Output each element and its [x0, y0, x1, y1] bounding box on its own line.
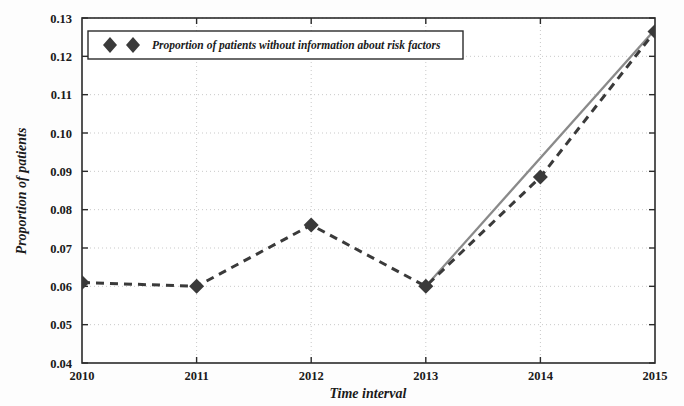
x-tick-label: 2010: [70, 369, 95, 383]
y-tick-label: 0.12: [50, 50, 72, 64]
y-tick-label: 0.13: [50, 12, 72, 26]
y-tick-label: 0.07: [50, 242, 72, 256]
y-tick-label: 0.09: [50, 165, 72, 179]
x-tick-label: 2015: [643, 369, 668, 383]
y-axis-tick-labels: 0.040.050.060.070.080.090.100.110.120.13: [50, 12, 73, 371]
y-tick-label: 0.08: [50, 203, 72, 217]
line-chart: 0.040.050.060.070.080.090.100.110.120.13…: [0, 0, 684, 406]
y-tick-label: 0.10: [50, 127, 72, 141]
x-tick-label: 2011: [184, 369, 208, 383]
y-tick-label: 0.05: [50, 318, 72, 332]
x-tick-label: 2014: [528, 369, 554, 383]
plot-background: [82, 18, 655, 363]
y-axis-title: Proportion of patients: [14, 127, 29, 254]
y-tick-label: 0.11: [51, 88, 72, 102]
x-tick-label: 2012: [299, 369, 324, 383]
chart-legend[interactable]: Proportion of patients without informati…: [88, 31, 463, 59]
y-tick-label: 0.06: [50, 280, 72, 294]
legend-item-label: Proportion of patients without informati…: [152, 39, 441, 52]
x-axis-title: Time interval: [330, 386, 407, 401]
x-tick-label: 2013: [413, 369, 438, 383]
x-axis-tick-labels: 201020112012201320142015: [70, 369, 668, 383]
chart-figure: 0.040.050.060.070.080.090.100.110.120.13…: [0, 0, 684, 406]
